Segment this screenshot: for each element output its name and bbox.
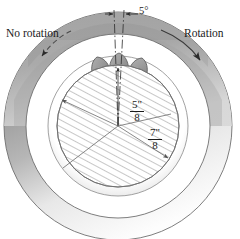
dimension-numerator: 5" [130,99,144,110]
rotation-label: Rotation [184,28,224,40]
dimension-denominator: 8 [148,140,162,151]
dimension-label-inner: 5" 8 [130,99,144,123]
dimension-numerator: 7" [148,127,162,138]
no-rotation-label: No rotation [6,28,59,40]
dimension-denominator: 8 [130,112,144,123]
dimension-label-outer: 7" 8 [148,127,162,151]
clutch-diagram-figure: No rotation Rotation 5° 5" 8 7" 8 [0,0,240,239]
angle-label: 5° [139,6,148,17]
